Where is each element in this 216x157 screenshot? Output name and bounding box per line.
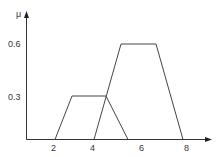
x-tick-6: 6 bbox=[139, 144, 144, 153]
x-tick-8: 8 bbox=[184, 144, 189, 153]
y-tick-03: 0.3 bbox=[8, 93, 21, 102]
y-axis-label: μ bbox=[16, 10, 21, 19]
trapezoid-1-line bbox=[55, 96, 128, 140]
membership-chart bbox=[0, 0, 216, 157]
y-axis-arrow-icon bbox=[24, 11, 29, 18]
x-axis-arrow-icon bbox=[205, 137, 212, 142]
x-tick-4: 4 bbox=[90, 144, 95, 153]
trapezoid-2-line bbox=[94, 44, 183, 140]
y-tick-06: 0.6 bbox=[8, 40, 21, 49]
x-tick-2: 2 bbox=[51, 144, 56, 153]
